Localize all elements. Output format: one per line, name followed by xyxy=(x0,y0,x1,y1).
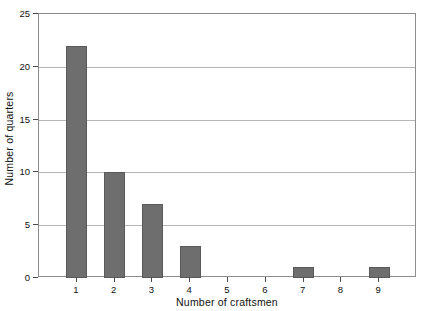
y-tick-label: 15 xyxy=(0,113,30,124)
x-tick-mark xyxy=(189,277,190,282)
bar xyxy=(293,267,314,278)
bar xyxy=(66,46,87,278)
y-tick-mark xyxy=(33,224,38,225)
plot-area xyxy=(38,13,416,277)
bar xyxy=(369,267,390,278)
x-tick-label: 9 xyxy=(363,284,393,295)
y-axis-title: Number of quarters xyxy=(0,0,18,277)
y-tick-label: 5 xyxy=(0,219,30,230)
y-tick-mark xyxy=(33,13,38,14)
x-tick-label: 4 xyxy=(174,284,204,295)
x-tick-mark xyxy=(76,277,77,282)
bar xyxy=(104,172,125,278)
x-tick-mark xyxy=(378,277,379,282)
x-tick-label: 2 xyxy=(99,284,129,295)
x-tick-label: 8 xyxy=(325,284,355,295)
x-tick-label: 3 xyxy=(136,284,166,295)
x-tick-mark xyxy=(265,277,266,282)
x-tick-label: 5 xyxy=(212,284,242,295)
y-tick-label: 20 xyxy=(0,60,30,71)
x-tick-mark xyxy=(114,277,115,282)
x-tick-label: 1 xyxy=(61,284,91,295)
bar xyxy=(142,204,163,278)
y-tick-label: 10 xyxy=(0,166,30,177)
x-axis-title: Number of craftsmen xyxy=(38,296,416,308)
y-tick-mark xyxy=(33,66,38,67)
x-tick-mark xyxy=(151,277,152,282)
gridline xyxy=(39,172,415,173)
gridline xyxy=(39,225,415,226)
x-tick-label: 7 xyxy=(288,284,318,295)
y-tick-mark xyxy=(33,277,38,278)
gridline xyxy=(39,67,415,68)
x-tick-mark xyxy=(303,277,304,282)
gridline xyxy=(39,120,415,121)
y-tick-label: 25 xyxy=(0,8,30,19)
bar-chart: Number of quarters 0510152025 123456789 … xyxy=(0,0,437,311)
x-tick-label: 6 xyxy=(250,284,280,295)
y-tick-label: 0 xyxy=(0,272,30,283)
x-tick-mark xyxy=(340,277,341,282)
y-tick-mark xyxy=(33,171,38,172)
bar xyxy=(180,246,201,278)
y-tick-mark xyxy=(33,119,38,120)
x-tick-mark xyxy=(227,277,228,282)
